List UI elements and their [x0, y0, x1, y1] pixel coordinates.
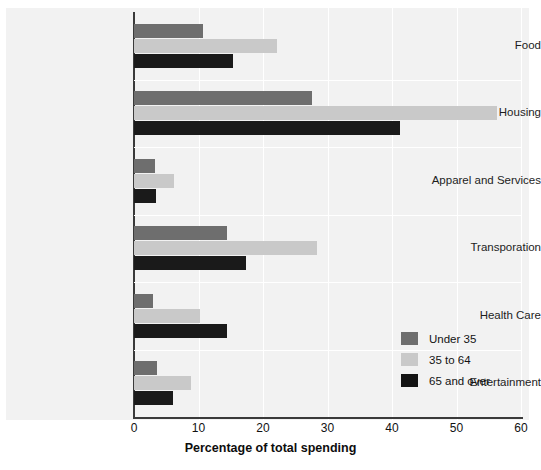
x-tick-label: 20: [256, 421, 269, 435]
bar: [134, 391, 173, 405]
legend-swatch-icon: [401, 353, 418, 366]
legend-item: 35 to 64: [401, 349, 521, 370]
bar: [134, 294, 153, 308]
bar: [134, 24, 203, 38]
bar: [134, 54, 233, 68]
bar: [134, 39, 277, 53]
bar: [134, 324, 227, 338]
category-label: Health Care: [413, 309, 541, 321]
category-separator: [134, 80, 522, 81]
x-axis-line: [133, 417, 523, 419]
x-tick-label: 0: [131, 421, 138, 435]
bar: [134, 174, 174, 188]
bar: [134, 91, 312, 105]
bar: [134, 361, 157, 375]
legend-swatch-icon: [401, 374, 418, 387]
bar: [134, 189, 156, 203]
category-separator: [134, 282, 522, 283]
category-separator: [134, 147, 522, 148]
x-tick-label: 60: [514, 421, 527, 435]
legend-item: 65 and over: [401, 370, 521, 391]
bar: [134, 376, 191, 390]
category-label: Transporation: [413, 241, 541, 253]
category-label: Apparel and Services: [413, 174, 541, 186]
legend-item: Under 35: [401, 328, 521, 349]
x-tick-label: 40: [385, 421, 398, 435]
x-tick-label: 10: [192, 421, 205, 435]
x-tick-label: 30: [321, 421, 334, 435]
x-tick-label: 50: [450, 421, 463, 435]
bar: [134, 241, 317, 255]
bar-chart: FoodHousingApparel and ServicesTranspora…: [0, 0, 541, 470]
legend-swatch-icon: [401, 332, 418, 345]
bar: [134, 256, 246, 270]
bar: [134, 159, 155, 173]
legend-label: Under 35: [429, 333, 476, 345]
legend: Under 3535 to 6465 and over: [401, 328, 521, 391]
bar: [134, 121, 400, 135]
bar: [134, 309, 200, 323]
category-label: Food: [413, 39, 541, 51]
x-axis-title: Percentage of total spending: [0, 441, 541, 455]
category-label: Housing: [413, 106, 541, 118]
bar: [134, 226, 227, 240]
legend-label: 65 and over: [429, 375, 490, 387]
category-separator: [134, 215, 522, 216]
legend-label: 35 to 64: [429, 354, 471, 366]
